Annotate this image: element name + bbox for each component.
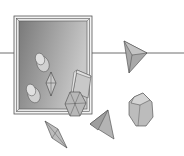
bipyramid-bottom-left: [45, 121, 67, 148]
illustration-scene: [0, 0, 184, 156]
tetrahedron-top-right: [124, 41, 147, 73]
tetrahedron-bottom: [90, 110, 114, 139]
octagonal-prism: [129, 93, 153, 126]
scene-svg: [0, 0, 184, 156]
